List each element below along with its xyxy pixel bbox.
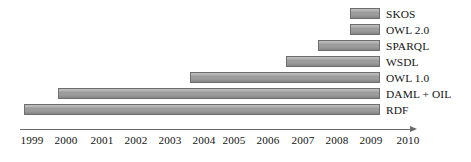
bar-skos xyxy=(350,8,380,19)
bar-sparql xyxy=(318,40,380,51)
bar-label-daml-oil: DAML + OIL xyxy=(386,88,451,99)
bar-label-skos: SKOS xyxy=(386,8,416,19)
bar-row: OWL 2.0 xyxy=(0,24,471,35)
bar-rdf xyxy=(24,104,380,115)
bar-label-owl-1-0: OWL 1.0 xyxy=(386,72,429,83)
bar-row: DAML + OIL xyxy=(0,88,471,99)
timeline-chart: SKOS OWL 2.0 SPARQL WSDL OWL 1.0 DAML + … xyxy=(0,0,471,162)
bar-label-owl-2-0: OWL 2.0 xyxy=(386,24,429,35)
x-axis-arrow-icon xyxy=(410,126,417,132)
bar-owl-2-0 xyxy=(350,24,380,35)
bar-owl-1-0 xyxy=(190,72,380,83)
x-axis-line xyxy=(20,129,412,130)
x-tick-2010: 2010 xyxy=(385,134,431,146)
bar-daml-oil xyxy=(58,88,380,99)
bar-label-rdf: RDF xyxy=(386,104,408,115)
bar-wsdl xyxy=(286,56,380,67)
bar-row: RDF xyxy=(0,104,471,115)
bar-row: WSDL xyxy=(0,56,471,67)
bar-row: OWL 1.0 xyxy=(0,72,471,83)
bar-label-wsdl: WSDL xyxy=(386,56,419,67)
bar-label-sparql: SPARQL xyxy=(386,40,429,51)
bar-row: SKOS xyxy=(0,8,471,19)
bar-row: SPARQL xyxy=(0,40,471,51)
